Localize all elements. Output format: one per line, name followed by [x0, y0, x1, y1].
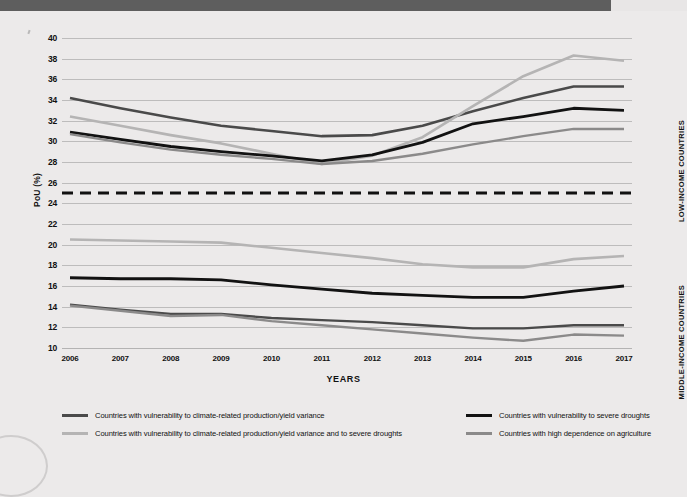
gridline: [62, 348, 632, 349]
y-tick-label: 38: [48, 54, 57, 64]
legend-item[interactable]: Countries with vulnerability to severe d…: [466, 411, 650, 420]
series-line: [70, 305, 624, 329]
x-tick-label: 2006: [62, 354, 79, 363]
panel-label-middle-income: MIDDLE-INCOME COUNTRIES: [677, 285, 686, 399]
x-tick-label: 2008: [162, 354, 179, 363]
x-tick-label: 2017: [616, 354, 633, 363]
y-axis-title: PoU (%): [32, 173, 42, 207]
series-lines: [62, 38, 632, 348]
legend-label: Countries with vulnerability to climate-…: [95, 411, 325, 420]
top-banner-tail: [611, 0, 687, 11]
x-tick-label: 2010: [263, 354, 280, 363]
legend-label: Countries with vulnerability to severe d…: [499, 411, 650, 420]
series-line: [70, 87, 624, 137]
x-axis-title: YEARS: [0, 374, 687, 384]
y-tick-label: 34: [48, 95, 57, 105]
x-tick-label: 2015: [515, 354, 532, 363]
x-tick-label: 2009: [213, 354, 230, 363]
series-line: [70, 278, 624, 298]
y-tick-label: 16: [48, 281, 57, 291]
x-tick-label: 2013: [414, 354, 431, 363]
y-tick-label: 28: [48, 157, 57, 167]
y-tick-label: 10: [48, 343, 57, 353]
top-banner: [0, 0, 611, 11]
x-tick-label: 2011: [314, 354, 331, 363]
plot-area: 10121416182022242628303234363840 2006200…: [62, 38, 632, 348]
legend-swatch-icon: [466, 432, 492, 435]
y-tick-label: 26: [48, 178, 57, 188]
chart-legend: Countries with vulnerability to climate-…: [0, 408, 687, 454]
series-line: [70, 306, 624, 341]
y-tick-label: 18: [48, 260, 57, 270]
x-tick-label: 2016: [565, 354, 582, 363]
x-tick-label: 2014: [464, 354, 481, 363]
y-tick-label: 20: [48, 240, 57, 250]
y-tick-label: 32: [48, 116, 57, 126]
y-tick-label: 22: [48, 219, 57, 229]
legend-label: Countries with high dependence on agricu…: [499, 429, 651, 438]
legend-swatch-icon: [466, 414, 492, 417]
series-line: [70, 240, 624, 268]
y-tick-label: 24: [48, 198, 57, 208]
panel-label-low-income: LOW-INCOME COUNTRIES: [677, 120, 686, 222]
y-tick-label: 12: [48, 322, 57, 332]
legend-swatch-icon: [62, 432, 88, 435]
legend-label: Countries with vulnerability to climate-…: [95, 429, 402, 438]
y-tick-label: 30: [48, 136, 57, 146]
y-tick-label: 14: [48, 302, 57, 312]
y-tick-label: 40: [48, 33, 57, 43]
x-tick-label: 2012: [364, 354, 381, 363]
x-tick-label: 2007: [112, 354, 129, 363]
legend-item[interactable]: Countries with vulnerability to climate-…: [62, 411, 325, 420]
page-speck: [27, 30, 30, 34]
legend-swatch-icon: [62, 414, 88, 417]
legend-item[interactable]: Countries with vulnerability to climate-…: [62, 429, 402, 438]
legend-item[interactable]: Countries with high dependence on agricu…: [466, 429, 651, 438]
y-tick-label: 36: [48, 74, 57, 84]
